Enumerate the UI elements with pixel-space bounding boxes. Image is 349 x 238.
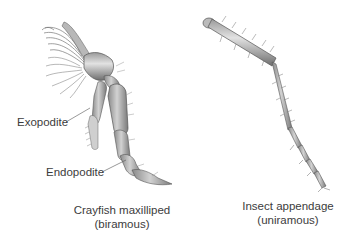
endopodite-leader-line (102, 160, 126, 172)
crayfish-caption-subtitle: (biramous) (52, 217, 192, 231)
insect-appendage-drawing (203, 16, 330, 192)
crayfish-caption: Crayfish maxilliped (biramous) (52, 203, 192, 231)
endopodite-label: Endopodite (46, 166, 104, 179)
exopodite-leader-line (66, 108, 90, 122)
insect-caption-title: Insect appendage (228, 199, 348, 213)
insect-caption: Insect appendage (uniramous) (228, 199, 348, 227)
crayfish-maxilliped-drawing (42, 22, 172, 185)
exopodite-label: Exopodite (17, 116, 68, 129)
crayfish-caption-title: Crayfish maxilliped (52, 203, 192, 217)
insect-caption-subtitle: (uniramous) (228, 213, 348, 227)
